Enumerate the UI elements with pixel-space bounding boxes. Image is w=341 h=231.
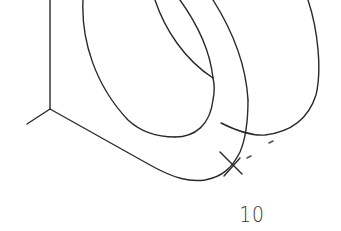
outer-ring-right-arc: [221, 0, 319, 135]
hidden-dash-2: [247, 156, 251, 158]
cross-mark-b: [224, 158, 240, 176]
middle-ring-arc: [213, 0, 248, 100]
inner-curve-b: [180, 0, 213, 78]
isometric-sketch: [0, 0, 341, 231]
figure-number: 10: [235, 201, 269, 229]
inner-loop-arc: [175, 78, 214, 137]
base-edge-curve: [50, 100, 248, 181]
hidden-dash-1: [269, 141, 273, 143]
left-edge: [27, 109, 50, 124]
outer-ring-left-arc: [83, 0, 175, 137]
inner-curve-a: [155, 0, 213, 78]
